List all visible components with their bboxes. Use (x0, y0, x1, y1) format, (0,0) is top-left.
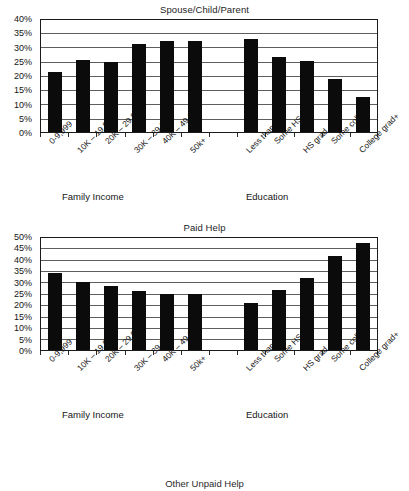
gridline (41, 76, 377, 77)
bar (188, 41, 203, 132)
category-label: 50k+ (189, 354, 208, 373)
bar (356, 243, 371, 350)
gridline (41, 248, 377, 249)
gridline (41, 271, 377, 272)
y-tick-label: 20% (14, 72, 32, 81)
bar (160, 294, 175, 350)
bar (132, 291, 147, 350)
y-tick-label: 15% (14, 312, 32, 321)
bar (244, 39, 259, 132)
y-tick-label: 5% (19, 335, 32, 344)
y-axis-labels: 0%5%10%15%20%25%30%35%40% (0, 19, 34, 133)
bar (300, 278, 315, 350)
y-tick-label: 30% (14, 43, 32, 52)
gridline (41, 328, 377, 329)
group-label-education: Education (246, 409, 288, 421)
bar (104, 62, 119, 132)
y-tick-label: 25% (14, 57, 32, 66)
bar (272, 290, 287, 350)
gridline (41, 305, 377, 306)
category-labels: 0-9,99910K – 19,99920K – 29,99930K – 39,… (0, 355, 409, 409)
y-tick-label: 45% (14, 244, 32, 253)
y-tick-label: 10% (14, 324, 32, 333)
bar (76, 60, 91, 132)
axis-group-labels: Family Income Education (0, 191, 409, 206)
chart-spouse-child-parent: Spouse/Child/Parent 0%5%10%15%20%25%30%3… (0, 0, 409, 206)
group-label-family-income: Family Income (62, 191, 124, 203)
gridline (41, 282, 377, 283)
y-tick-label: 20% (14, 301, 32, 310)
y-tick-label: 5% (19, 114, 32, 123)
bar (272, 57, 287, 132)
chart-title: Spouse/Child/Parent (0, 0, 409, 16)
bar (76, 282, 91, 350)
y-tick-label: 15% (14, 86, 32, 95)
gridline (41, 339, 377, 340)
y-tick-label: 35% (14, 267, 32, 276)
y-tick-label: 10% (14, 100, 32, 109)
bar (300, 61, 315, 132)
chart-title: Paid Help (0, 218, 409, 234)
y-tick-label: 40% (14, 15, 32, 24)
gridline (41, 104, 377, 105)
gridline (41, 33, 377, 34)
group-label-education: Education (246, 191, 288, 203)
bar (356, 97, 371, 132)
axis-group-labels: Family Income Education (0, 409, 409, 424)
group-label-family-income: Family Income (62, 409, 124, 421)
bar (244, 303, 259, 350)
y-tick-label: 25% (14, 290, 32, 299)
y-tick-label: 30% (14, 278, 32, 287)
bar (104, 286, 119, 350)
y-axis-labels: 0%5%10%15%20%25%30%35%40%45%50% (0, 237, 34, 351)
bar (132, 44, 147, 132)
gridline (41, 90, 377, 91)
bar (48, 273, 63, 350)
plot-frame (40, 237, 378, 351)
category-labels: 0-9,99910K – 19,99920K – 29,99930K – 39,… (0, 137, 409, 191)
gridline (41, 119, 377, 120)
plot-frame (40, 19, 378, 133)
category-label: 50k+ (189, 136, 208, 155)
y-tick-label: 35% (14, 29, 32, 38)
bar (160, 41, 175, 132)
bar (328, 79, 343, 132)
gridline (41, 317, 377, 318)
chart-title-other-unpaid-help: Other Unpaid Help (0, 478, 409, 490)
y-tick-label: 40% (14, 255, 32, 264)
gridline (41, 47, 377, 48)
gridline (41, 294, 377, 295)
bar (188, 294, 203, 350)
bar (48, 72, 63, 132)
gridline (41, 260, 377, 261)
y-tick-label: 50% (14, 233, 32, 242)
bar (328, 256, 343, 350)
chart-paid-help: Paid Help 0%5%10%15%20%25%30%35%40%45%50… (0, 218, 409, 424)
gridline (41, 62, 377, 63)
